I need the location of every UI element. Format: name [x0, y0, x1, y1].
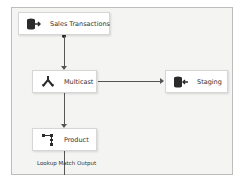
node-label: Multicast — [64, 78, 93, 86]
node-sales-transactions[interactable]: Sales Transactions — [18, 12, 110, 35]
node-label: Sales Transactions — [50, 20, 110, 28]
multicast-split-icon — [40, 74, 56, 90]
node-label: Staging — [197, 78, 222, 86]
source-database-icon — [26, 16, 42, 32]
arrowhead-icon — [160, 78, 164, 84]
node-label: Product — [64, 136, 89, 144]
connector-multicast-to-product[interactable] — [64, 93, 65, 125]
node-multicast[interactable]: Multicast — [32, 70, 97, 93]
connector-multicast-to-staging[interactable] — [98, 81, 161, 82]
node-staging[interactable]: Staging — [165, 70, 228, 93]
lookup-icon — [40, 132, 56, 148]
node-product[interactable]: Product — [32, 128, 97, 151]
destination-database-icon — [173, 74, 189, 90]
path-label-lookup-match-output: Lookup Match Output — [37, 160, 96, 166]
connector-sales-to-multicast[interactable] — [64, 36, 65, 67]
